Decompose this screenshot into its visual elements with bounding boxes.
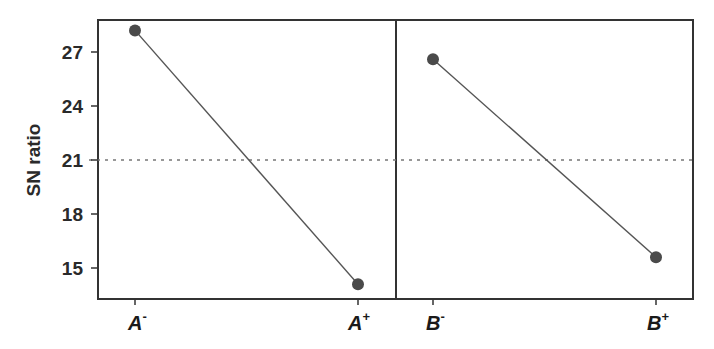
data-point-a-plus <box>352 278 364 290</box>
data-point-b-minus <box>427 53 439 65</box>
data-point-b-plus <box>650 251 662 263</box>
x-label-b-plus: B+ <box>647 309 669 334</box>
y-tick-label: 15 <box>62 258 84 279</box>
y-tick-label: 18 <box>62 204 83 225</box>
x-label-b-minus: B- <box>426 309 445 334</box>
series-line-b <box>433 59 656 257</box>
y-tick-label: 21 <box>62 150 84 171</box>
y-axis: 1518212427 <box>62 42 98 279</box>
series-line-a <box>135 30 358 284</box>
x-axis: A- A+ B- B+ <box>127 299 669 334</box>
y-tick-label: 24 <box>62 96 84 117</box>
main-effects-chart: 1518212427 SN ratio A- A+ B- B+ <box>0 0 714 349</box>
x-label-a-minus: A- <box>127 309 147 334</box>
x-label-a-plus: A+ <box>347 309 370 334</box>
y-tick-label: 27 <box>62 42 83 63</box>
y-axis-title: SN ratio <box>23 124 44 197</box>
data-point-a-minus <box>129 24 141 36</box>
